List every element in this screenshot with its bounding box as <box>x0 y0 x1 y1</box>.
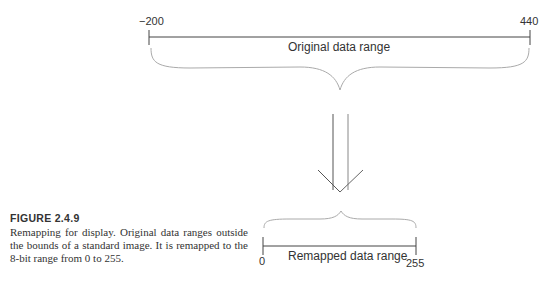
original-range-label: Original data range <box>288 40 390 54</box>
remapped-range-brace <box>264 211 416 228</box>
original-min-label: −200 <box>139 15 164 27</box>
original-max-label: 440 <box>520 15 538 27</box>
original-range-brace <box>151 48 529 90</box>
figure-caption-text: Remapping for display. Original data ran… <box>10 226 248 265</box>
remapped-min-label: 0 <box>259 255 265 267</box>
figure-caption: FIGURE 2.4.9 Remapping for display. Orig… <box>10 212 248 265</box>
remapping-diagram: −200 440 Original data range 0 255 Remap… <box>0 0 555 283</box>
down-arrow-icon <box>318 114 363 192</box>
figure-caption-title: FIGURE 2.4.9 <box>10 212 248 225</box>
remapped-max-label: 255 <box>406 257 424 269</box>
remapped-range-label: Remapped data range <box>288 249 407 263</box>
